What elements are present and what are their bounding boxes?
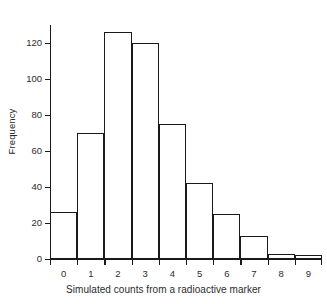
x-tick-label: 1 xyxy=(88,268,93,279)
x-tick xyxy=(77,260,78,265)
x-tick-label: 4 xyxy=(170,268,175,279)
y-tick: 100 xyxy=(45,79,50,80)
y-tick-label: 0 xyxy=(37,253,42,264)
y-tick: 20 xyxy=(45,223,50,224)
x-tick-label: 9 xyxy=(306,268,311,279)
histogram-bar xyxy=(186,183,213,259)
x-tick xyxy=(159,260,160,265)
x-tick-label: 0 xyxy=(61,268,66,279)
x-tick xyxy=(321,260,322,265)
x-tick xyxy=(186,260,187,265)
plot-area: 020406080100120 0123456789 xyxy=(50,20,322,260)
y-tick-label: 100 xyxy=(26,73,42,84)
x-tick xyxy=(240,260,241,265)
x-tick-label: 2 xyxy=(115,268,120,279)
histogram-bar xyxy=(295,255,322,259)
x-tick xyxy=(50,260,51,265)
x-tick-label: 5 xyxy=(197,268,202,279)
x-tick-label: 7 xyxy=(251,268,256,279)
x-tick-label: 8 xyxy=(279,268,284,279)
y-tick: 60 xyxy=(45,151,50,152)
y-tick: 120 xyxy=(45,43,50,44)
histogram-bar xyxy=(132,43,159,259)
x-tick xyxy=(268,260,269,265)
x-tick-label: 6 xyxy=(224,268,229,279)
y-tick: 40 xyxy=(45,187,50,188)
x-tick xyxy=(104,260,105,265)
y-tick-label: 40 xyxy=(31,181,42,192)
x-tick xyxy=(213,260,214,265)
y-axis-title-text: Frequency xyxy=(7,108,18,154)
x-tick xyxy=(132,260,133,265)
histogram-bar xyxy=(159,124,186,259)
histogram-bar xyxy=(77,133,104,259)
y-tick: 80 xyxy=(45,115,50,116)
histogram-bar xyxy=(50,212,77,259)
histogram-bar xyxy=(268,254,295,259)
x-tick xyxy=(295,260,296,265)
y-tick-label: 80 xyxy=(31,109,42,120)
y-tick-label: 120 xyxy=(26,37,42,48)
x-tick-label: 3 xyxy=(143,268,148,279)
histogram-bar xyxy=(104,32,131,259)
histogram-bar xyxy=(213,214,240,259)
x-axis-title: Simulated counts from a radioactive mark… xyxy=(0,284,327,295)
histogram-chart: Frequency 020406080100120 0123456789 Sim… xyxy=(0,0,327,304)
y-axis-title: Frequency xyxy=(2,0,22,262)
y-tick-label: 20 xyxy=(31,217,42,228)
bars-layer xyxy=(50,20,322,260)
histogram-bar xyxy=(240,236,267,259)
y-tick-label: 60 xyxy=(31,145,42,156)
